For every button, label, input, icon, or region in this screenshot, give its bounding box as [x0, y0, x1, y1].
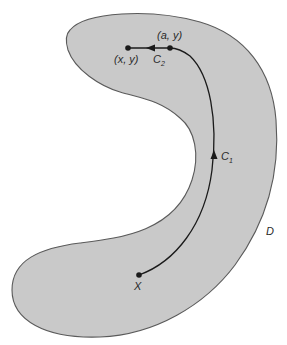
point-x-y [125, 45, 131, 51]
label-start-x: X [133, 280, 142, 292]
point-a-y [167, 45, 173, 51]
region-diagram: (a, y) (x, y) C2 C1 X D [0, 0, 287, 345]
point-x [136, 272, 142, 278]
label-x-y: (x, y) [114, 53, 139, 65]
label-region-d: D [266, 225, 274, 237]
label-a-y: (a, y) [157, 29, 182, 41]
region-d [12, 14, 277, 338]
